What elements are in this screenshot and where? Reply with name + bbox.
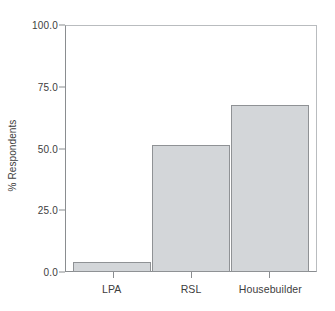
x-tickmark-lpa <box>113 272 114 278</box>
bar-chart: % Respondents 100.0 75.0 50.0 25.0 0.0 L… <box>0 0 335 311</box>
y-axis-ticklabels: 100.0 75.0 50.0 25.0 0.0 <box>22 0 58 311</box>
x-axis-ticklabels: LPA RSL Housebuilder <box>66 283 316 295</box>
bar-housebuilder <box>231 105 309 272</box>
y-ticklabel-25: 25.0 <box>38 205 58 216</box>
bar-slot-housebuilder <box>231 26 310 272</box>
y-ticklabel-100: 100.0 <box>32 20 58 31</box>
y-axis-title: % Respondents <box>0 0 24 311</box>
bar-slot-lpa <box>72 26 151 272</box>
y-ticklabel-50: 50.0 <box>38 143 58 154</box>
bar-slot-rsl <box>151 26 230 272</box>
y-ticklabel-0: 0.0 <box>43 267 58 278</box>
x-tickmark-housebuilder <box>269 272 270 278</box>
x-ticklabel-housebuilder: Housebuilder <box>231 283 310 295</box>
bar-lpa <box>73 262 151 272</box>
bar-rsl <box>152 145 230 272</box>
y-ticklabel-75: 75.0 <box>38 81 58 92</box>
bars-area <box>66 26 316 272</box>
x-ticklabel-lpa: LPA <box>72 283 151 295</box>
x-ticklabel-rsl: RSL <box>151 283 230 295</box>
x-tickmark-rsl <box>191 272 192 278</box>
